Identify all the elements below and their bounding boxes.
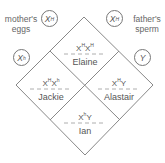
elaine-genotype: XHXH — [60, 42, 110, 53]
mother-gamete-top: XH — [41, 10, 58, 27]
mother-eggs-label: mother's eggs — [2, 14, 40, 34]
father-gamete-bottom: Y — [134, 49, 151, 66]
alastair-genotype: XHY — [94, 77, 144, 88]
father-sperm-label: father's sperm — [128, 14, 165, 34]
mother-gamete-bottom: Xh — [13, 49, 30, 66]
jackie-name: Jackie — [26, 92, 76, 102]
jackie-genotype: XHXh — [26, 77, 76, 88]
elaine-name: Elaine — [60, 57, 110, 67]
father-gamete-top: XH — [106, 10, 123, 27]
ian-name: Ian — [60, 126, 110, 136]
ian-genotype: XhY — [60, 111, 110, 122]
alastair-name: Alastair — [94, 92, 144, 102]
